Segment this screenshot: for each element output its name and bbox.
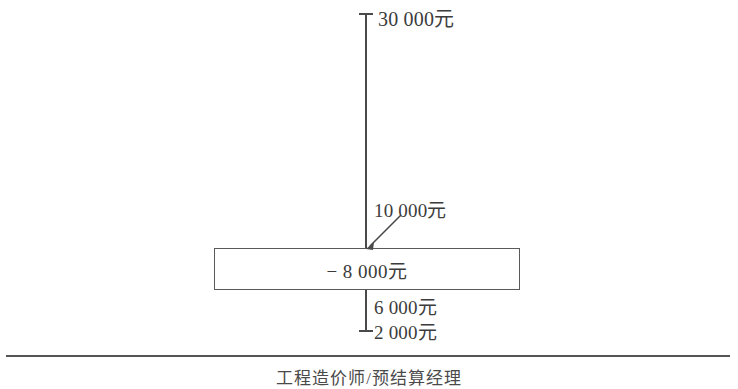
axis-line-lower	[365, 290, 367, 332]
axis-line-upper	[365, 14, 367, 250]
footer-caption: 工程造价师/预结算经理	[0, 364, 738, 389]
below-box-label: 6 000元	[374, 292, 437, 319]
axis-label-top: 30 000元	[378, 3, 454, 32]
axis-tick-bottom	[359, 330, 373, 332]
axis-tick-top	[359, 13, 373, 15]
value-box-label: − 8 000元	[214, 248, 520, 290]
axis-label-bottom: 2 000元	[374, 317, 437, 344]
callout-label: 10 000元	[374, 195, 447, 222]
footer-divider	[6, 355, 730, 357]
